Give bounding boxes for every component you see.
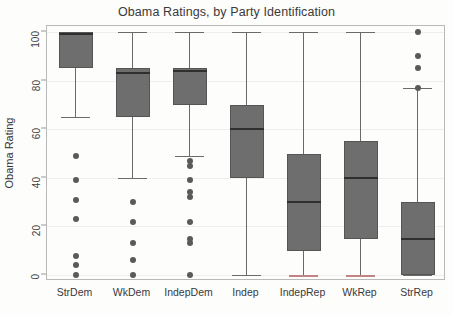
x-tick-label-wkrep: WkRep	[342, 286, 376, 298]
y-tick-label-80: 80	[31, 80, 42, 91]
y-tick-label-0: 0	[31, 274, 42, 280]
y-tick-label-60: 60	[31, 128, 42, 139]
outlier-point	[415, 29, 421, 35]
x-tick-label-indep: Indep	[232, 286, 258, 298]
boxplot-chart: Obama Ratings, by Party Identification O…	[0, 0, 453, 315]
x-tick-label-indepdem: IndepDem	[164, 286, 212, 298]
outlier-point	[415, 65, 421, 71]
x-axis: StrDemWkDemIndepDemIndepIndepRepWkRepStr…	[46, 286, 445, 306]
x-tick-label-strdem: StrDem	[57, 286, 93, 298]
outlier-point	[415, 85, 421, 91]
chart-title: Obama Ratings, by Party Identification	[0, 5, 453, 19]
x-tick-label-wkdem: WkDem	[113, 286, 150, 298]
y-tick-label-100: 100	[31, 31, 42, 48]
y-tick-label-40: 40	[31, 177, 42, 188]
y-axis: 020406080100	[0, 25, 46, 280]
x-tick-label-strrep: StrRep	[400, 286, 433, 298]
whisker-cap-low	[403, 275, 432, 276]
median-line	[401, 238, 435, 240]
x-tick-label-indeprep: IndepRep	[280, 286, 326, 298]
y-tick-label-20: 20	[31, 225, 42, 236]
outlier-point	[415, 53, 421, 59]
plot-area	[46, 25, 445, 280]
boxplot-strrep	[47, 26, 445, 279]
